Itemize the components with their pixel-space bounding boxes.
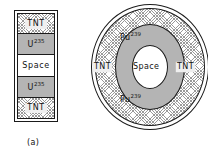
panel-b-implosion-sphere: Pu239 Pu239 Space TNT TNT (b) bbox=[88, 0, 208, 159]
panel-a-layer-tnt-bottom: TNT bbox=[18, 98, 54, 118]
panel-a-layer-tnt-bottom-label: TNT bbox=[26, 104, 46, 112]
panel-b-label-pu239-top-mass: 239 bbox=[131, 31, 142, 37]
panel-a-layer-u235-bottom-label: U235 bbox=[27, 82, 46, 92]
panel-a-layer-space-label: Space bbox=[21, 62, 50, 70]
panel-b-label-tnt-right: TNT bbox=[177, 63, 194, 71]
panel-a-layer-u235-top-mass: 235 bbox=[34, 38, 45, 44]
panel-b-label-tnt-left: TNT bbox=[94, 63, 111, 71]
panel-a-layer-u235-top-label: U235 bbox=[27, 39, 46, 49]
panel-b-label-pu239-bottom-element: Pu bbox=[120, 95, 131, 104]
panel-a-layer-tnt-top-label: TNT bbox=[26, 20, 46, 28]
panel-b-label-space: Space bbox=[133, 63, 159, 71]
panel-b-label-pu239-bottom: Pu239 bbox=[120, 94, 141, 104]
panel-b-label-pu239-top-element: Pu bbox=[120, 33, 131, 42]
panel-a-caption: (a) bbox=[27, 138, 39, 147]
panel-a-gun-type-assembly: TNT U235 Space U235 TNT (a) bbox=[0, 0, 90, 159]
panel-a-layer-space: Space bbox=[18, 55, 54, 77]
panel-b-label-pu239-bottom-mass: 239 bbox=[131, 93, 142, 99]
panel-a-layer-stack: TNT U235 Space U235 TNT bbox=[17, 13, 55, 119]
panel-b-label-pu239-top: Pu239 bbox=[120, 32, 141, 42]
figure-root: TNT U235 Space U235 TNT (a) Pu239 Pu239 … bbox=[0, 0, 208, 159]
panel-a-layer-tnt-top: TNT bbox=[18, 14, 54, 34]
panel-a-layer-u235-bottom: U235 bbox=[18, 77, 54, 98]
panel-a-layer-u235-bottom-mass: 235 bbox=[34, 81, 45, 87]
panel-a-layer-u235-top: U235 bbox=[18, 34, 54, 55]
